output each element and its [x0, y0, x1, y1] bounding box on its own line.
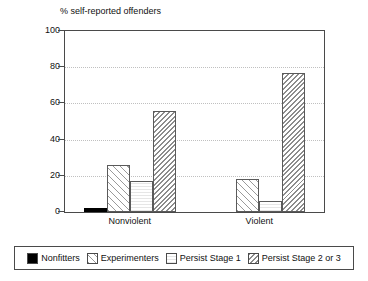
x-category-label: Nonviolent: [65, 216, 195, 226]
chart-figure: % self-reported offenders 020406080100 N…: [0, 0, 368, 281]
legend-label: Experimenters: [101, 253, 159, 263]
legend-swatch-icon: [166, 253, 177, 264]
bar: [107, 165, 130, 212]
legend-swatch-icon: [248, 253, 259, 264]
bar: [282, 73, 305, 212]
legend-item: Persist Stage 1: [166, 253, 241, 264]
bar: [84, 208, 107, 212]
legend-item: Persist Stage 2 or 3: [248, 253, 341, 264]
legend-swatch-icon: [87, 253, 98, 264]
chart-title: % self-reported offenders: [60, 6, 161, 16]
legend-label: Persist Stage 1: [180, 253, 241, 263]
legend-item: Experimenters: [87, 253, 159, 264]
y-tick-mark: [58, 102, 64, 103]
y-tick-mark: [58, 211, 64, 212]
legend-item: Nonfitters: [27, 253, 80, 264]
bar: [236, 179, 259, 212]
legend-label: Persist Stage 2 or 3: [262, 253, 341, 263]
bar: [153, 111, 176, 212]
y-tick-mark: [58, 66, 64, 67]
bar: [259, 201, 282, 212]
bars-group: [65, 31, 324, 212]
chart-legend: NonfittersExperimentersPersist Stage 1Pe…: [14, 246, 354, 270]
y-tick-mark: [58, 30, 64, 31]
legend-swatch-icon: [27, 253, 38, 264]
x-category-label: Violent: [195, 216, 325, 226]
bar: [130, 181, 153, 212]
y-tick-mark: [58, 175, 64, 176]
legend-label: Nonfitters: [41, 253, 80, 263]
y-tick-mark: [58, 139, 64, 140]
y-axis: 020406080100: [32, 30, 60, 213]
